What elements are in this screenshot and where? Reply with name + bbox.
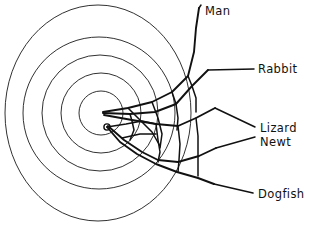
branch-rabbit	[103, 70, 208, 114]
branch-man	[103, 8, 199, 112]
leader-line-lizard	[215, 108, 255, 127]
cross-link-f	[156, 124, 160, 162]
label-dogfish: Dogfish	[258, 187, 305, 201]
leader-line-newt	[216, 137, 255, 148]
branching-network	[103, 8, 216, 184]
diagram-canvas: Man Rabbit Lizard Newt Dogfish	[0, 0, 312, 225]
label-man: Man	[205, 4, 230, 18]
leader-line-rabbit	[208, 69, 254, 70]
label-lizard: Lizard	[260, 121, 297, 135]
label-newt: Newt	[260, 135, 291, 149]
cross-link-j	[122, 134, 156, 138]
species-labels: Man Rabbit Lizard Newt Dogfish	[205, 4, 305, 201]
figure-svg: Man Rabbit Lizard Newt Dogfish	[0, 0, 312, 225]
leader-lines	[199, 5, 255, 193]
cross-link-h	[196, 118, 198, 176]
ring-2	[61, 73, 141, 153]
label-rabbit: Rabbit	[258, 62, 298, 76]
leader-line-man	[199, 5, 201, 8]
concentric-rings	[5, 5, 191, 221]
leader-line-dogfish	[214, 184, 253, 193]
